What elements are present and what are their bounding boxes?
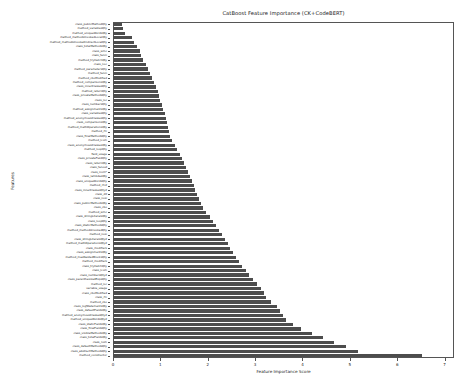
bar-row <box>113 121 454 124</box>
y-tick-label: class_totalMethodsQty <box>76 45 107 48</box>
y-tick-mark <box>108 60 110 61</box>
y-tick-label: method_comparisonsQty <box>73 81 107 84</box>
y-tick-mark <box>108 347 110 348</box>
y-tick-label: class_lambdasQty <box>82 175 107 178</box>
bar-row <box>113 45 454 48</box>
y-tick-mark <box>108 56 110 57</box>
bar-row <box>113 220 454 223</box>
bar <box>113 175 190 178</box>
y-tick-label: class_returnQty <box>86 162 107 165</box>
y-tick-mark <box>108 109 110 110</box>
bar <box>113 170 188 173</box>
bar-row <box>113 166 454 169</box>
bar-row <box>113 318 454 321</box>
y-tick-label: class_numbersQty <box>82 103 107 106</box>
y-tick-mark <box>108 33 110 34</box>
y-tick-label: class_innerClassesQty2 <box>75 189 107 192</box>
y-tick-mark <box>108 244 110 245</box>
bar <box>113 336 323 339</box>
x-tick-mark <box>350 358 351 361</box>
bar-row <box>113 157 454 160</box>
bar <box>113 153 180 156</box>
y-tick-mark <box>108 338 110 339</box>
y-tick-mark <box>108 114 110 115</box>
y-tick-label: class_uniqueWordsQty <box>76 180 107 183</box>
bar-row <box>113 251 454 254</box>
bar-row <box>113 184 454 187</box>
y-tick-mark <box>108 208 110 209</box>
y-tick-label: method_wmc <box>89 211 107 214</box>
y-tick-mark <box>108 235 110 236</box>
y-tick-label: method_lcom <box>88 139 107 142</box>
y-tick-mark <box>108 163 110 164</box>
y-tick-label: method_cbo <box>90 301 107 304</box>
bar-row <box>113 238 454 241</box>
chart-title: CatBoost Feature Importance (CK+CodeBERT… <box>113 10 454 16</box>
y-tick-label: method_assignmentsQty <box>73 108 107 111</box>
bar <box>113 197 199 200</box>
y-tick-mark <box>108 351 110 352</box>
y-tick-label: class_publicMethodsQty <box>74 202 107 205</box>
x-tick-mark <box>302 358 303 361</box>
y-tick-label: class_lcom <box>92 269 107 272</box>
y-tick-mark <box>108 186 110 187</box>
y-tick-label: method_cboModified <box>78 77 107 80</box>
bar-row <box>113 278 454 281</box>
y-tick-mark <box>108 51 110 52</box>
y-tick-label: class_rfc <box>95 296 107 299</box>
y-tick-mark <box>108 271 110 272</box>
bar-row <box>113 117 454 120</box>
bar-row <box>113 247 454 250</box>
y-tick-mark <box>108 172 110 173</box>
y-tick-label: method_constructor <box>79 354 107 357</box>
y-tick-label: class_defaultFieldsQty <box>76 309 107 312</box>
y-tick-mark <box>108 87 110 88</box>
y-tick-label: class_lcom* <box>91 171 107 174</box>
y-tick-label: class_noc <box>94 63 107 66</box>
bar-row <box>113 36 454 39</box>
y-tick-mark <box>108 24 110 25</box>
x-tick-label: 4 <box>301 362 304 367</box>
bar-row <box>113 27 454 30</box>
bar-row <box>113 327 454 330</box>
y-tick-mark <box>108 262 110 263</box>
bar <box>113 251 233 254</box>
y-tick-label: method_nosi <box>89 233 107 236</box>
bar <box>113 314 283 317</box>
bar-row <box>113 41 454 44</box>
y-tick-mark <box>108 230 110 231</box>
y-tick-mark <box>108 199 110 200</box>
y-tick-label: class_numbersQty2 <box>80 274 107 277</box>
bar-row <box>113 81 454 84</box>
bar-row <box>113 54 454 57</box>
bar <box>113 161 184 164</box>
bar-row <box>113 23 454 26</box>
bar <box>113 148 177 151</box>
y-axis-title: Features <box>10 172 15 190</box>
y-tick-mark <box>108 127 110 128</box>
y-tick-mark <box>108 78 110 79</box>
bar-row <box>113 63 454 66</box>
y-tick-label: class_fanout <box>90 166 107 169</box>
y-tick-mark <box>108 266 110 267</box>
y-tick-label: class_privateMethodsQty <box>72 94 107 97</box>
x-tick-label: 3 <box>254 362 257 367</box>
x-axis: Feature Importance Score 01234567 <box>113 358 454 388</box>
y-tick-label: method_methodsInvokedIndirectLocalQty <box>50 41 107 44</box>
bar <box>113 256 236 259</box>
y-tick-label: class_anonymousClassesQty <box>68 144 107 147</box>
bar-row <box>113 345 454 348</box>
bar-row <box>113 341 454 344</box>
bar-row <box>113 175 454 178</box>
bar-row <box>113 273 454 276</box>
bar <box>113 63 146 66</box>
y-tick-mark <box>108 333 110 334</box>
y-tick-label: class_staticFieldsQty <box>79 323 107 326</box>
y-tick-mark <box>108 342 110 343</box>
bar-row <box>113 148 454 151</box>
y-tick-label: method_rfc <box>91 130 107 133</box>
bar <box>113 211 206 214</box>
bar <box>113 341 334 344</box>
bar-row <box>113 72 454 75</box>
y-tick-label: class_defaultMethodsQty <box>73 345 108 348</box>
